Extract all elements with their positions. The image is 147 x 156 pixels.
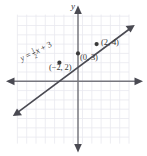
y-axis [74,6,82,153]
x-axis-arrow-right [135,77,144,85]
graph-figure: y (−2, 2) (0, 3) (2, 4) y = 12x + 3 [0,0,147,156]
point-marker [95,42,99,46]
point-label-2-4: (2, 4) [101,37,119,47]
point-label-minus2-2: (−2, 2) [49,62,72,72]
grid-lines [17,15,129,144]
point-label-0-3: (0, 3) [80,52,98,62]
y-axis-label: y [71,1,75,11]
y-axis-arrow-up [74,6,82,15]
y-axis-arrow-down [74,144,82,153]
x-axis-arrow-left [6,77,15,85]
coordinate-plane-svg [0,0,147,156]
